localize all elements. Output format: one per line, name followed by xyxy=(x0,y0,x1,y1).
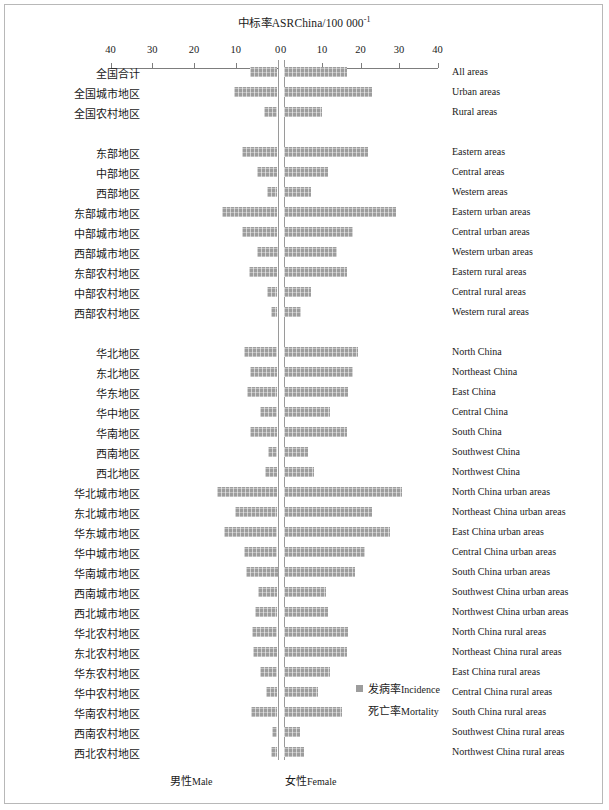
bar-female xyxy=(284,487,402,497)
bar-female xyxy=(284,587,326,597)
chart-row: 全国合计All areas xyxy=(0,62,609,82)
chart-row: 华中地区Central China xyxy=(0,402,609,422)
bar-female xyxy=(284,307,301,317)
chart-row: 中部城市地区Central urban areas xyxy=(0,222,609,242)
row-label-cn: 华南城市地区 xyxy=(14,565,140,581)
axis-tick-label-left-30: 30 xyxy=(137,44,167,55)
row-label-cn: 华北农村地区 xyxy=(14,625,140,641)
row-label-cn: 华东农村地区 xyxy=(14,665,140,681)
bar-male xyxy=(271,307,278,317)
row-label-cn: 西南地区 xyxy=(14,445,140,461)
bar-female xyxy=(284,547,365,557)
bar-male xyxy=(217,487,277,497)
row-label-cn: 西部地区 xyxy=(14,185,140,201)
row-label-en: Central China xyxy=(452,406,609,417)
row-label-cn: 西北地区 xyxy=(14,465,140,481)
row-label-en: East China urban areas xyxy=(452,526,609,537)
row-label-cn: 东部农村地区 xyxy=(14,265,140,281)
bar-male xyxy=(224,527,277,537)
row-label-cn: 华东城市地区 xyxy=(14,525,140,541)
chart-row: 东北地区Northeast China xyxy=(0,362,609,382)
axis-label-male-cn: 男性 xyxy=(170,775,192,787)
bar-male xyxy=(267,187,278,197)
bar-male xyxy=(265,467,278,477)
row-label-cn: 华北地区 xyxy=(14,345,140,361)
legend-label-en: Mortality xyxy=(401,706,439,717)
row-label-en: East China xyxy=(452,386,609,397)
chart-row: 西北农村地区Northwest China rural areas xyxy=(0,742,609,762)
bar-female xyxy=(284,527,390,537)
bar-male xyxy=(242,227,277,237)
row-label-en: Rural areas xyxy=(452,106,609,117)
row-label-cn: 中部城市地区 xyxy=(14,225,140,241)
bar-female xyxy=(284,607,329,617)
chart-row: 华南城市地区South China urban areas xyxy=(0,562,609,582)
chart-row: 华北农村地区North China rural areas xyxy=(0,622,609,642)
chart-row: 西部农村地区Western rural areas xyxy=(0,302,609,322)
row-label-en: Northwest China urban areas xyxy=(452,606,609,617)
row-label-cn: 中部农村地区 xyxy=(14,285,140,301)
row-label-cn: 华中农村地区 xyxy=(14,685,140,701)
legend-item: 发病率Incidence xyxy=(356,680,440,702)
row-label-en: Central urban areas xyxy=(452,226,609,237)
row-label-cn: 西部城市地区 xyxy=(14,245,140,261)
bar-male xyxy=(268,447,278,457)
bar-female xyxy=(284,207,396,217)
chart-row: 全国城市地区Urban areas xyxy=(0,82,609,102)
axis-tick-label-left-20: 20 xyxy=(179,44,209,55)
row-label-cn: 全国城市地区 xyxy=(14,85,140,101)
row-label-en: Northwest China xyxy=(452,466,609,477)
row-label-en: North China urban areas xyxy=(452,486,609,497)
row-label-cn: 华北城市地区 xyxy=(14,485,140,501)
row-label-cn: 西北城市地区 xyxy=(14,605,140,621)
axis-label-female-en: Female xyxy=(307,776,336,787)
axis-label-female: 女性Female xyxy=(285,772,336,788)
row-label-en: Central rural areas xyxy=(452,286,609,297)
axis-label-male: 男性Male xyxy=(170,772,213,788)
chart-row: 中部地区Central areas xyxy=(0,162,609,182)
chart-legend: 发病率Incidence死亡率Mortality xyxy=(356,680,440,724)
row-label-en: Northeast China rural areas xyxy=(452,646,609,657)
row-label-en: Southwest China xyxy=(452,446,609,457)
bar-male xyxy=(260,667,278,677)
chart-row: 东部农村地区Eastern rural areas xyxy=(0,262,609,282)
row-label-en: Eastern areas xyxy=(452,146,609,157)
row-label-cn: 中部地区 xyxy=(14,165,140,181)
bar-male xyxy=(257,167,277,177)
axis-tick-label-right-30: 30 xyxy=(384,44,414,55)
chart-row: 西部城市地区Western urban areas xyxy=(0,242,609,262)
bar-male xyxy=(249,267,278,277)
row-label-en: Southwest China urban areas xyxy=(452,586,609,597)
chart-row: 东北城市地区Northeast China urban areas xyxy=(0,502,609,522)
bar-female xyxy=(284,727,301,737)
axis-tick-label-right-10: 10 xyxy=(307,44,337,55)
axis-tick-label-left-40: 40 xyxy=(96,44,126,55)
bar-male xyxy=(251,707,278,717)
row-label-cn: 西北农村地区 xyxy=(14,745,140,761)
bar-male xyxy=(250,367,278,377)
bar-male xyxy=(250,67,278,77)
bar-male xyxy=(260,407,278,417)
bar-male xyxy=(246,567,277,577)
chart-row: 东北农村地区Northeast China rural areas xyxy=(0,642,609,662)
bar-female xyxy=(284,107,323,117)
row-label-en: Southwest China rural areas xyxy=(452,726,609,737)
row-label-en: Northeast China xyxy=(452,366,609,377)
row-label-en: South China urban areas xyxy=(452,566,609,577)
legend-item: 死亡率Mortality xyxy=(356,702,440,724)
row-label-en: East China rural areas xyxy=(452,666,609,677)
chart-row: 华中城市地区Central China urban areas xyxy=(0,542,609,562)
bar-male xyxy=(222,207,277,217)
legend-label-cn: 发病率 xyxy=(368,683,401,695)
chart-row: 西南地区Southwest China xyxy=(0,442,609,462)
bar-male xyxy=(247,387,277,397)
legend-label: 死亡率Mortality xyxy=(368,702,439,718)
chart-row: 西部地区Western areas xyxy=(0,182,609,202)
bar-female xyxy=(284,267,347,277)
chart-row: 东部城市地区Eastern urban areas xyxy=(0,202,609,222)
row-label-cn: 华南农村地区 xyxy=(14,705,140,721)
bar-female xyxy=(284,287,311,297)
row-label-en: North China xyxy=(452,346,609,357)
bar-male xyxy=(272,727,278,737)
row-label-cn: 西南农村地区 xyxy=(14,725,140,741)
